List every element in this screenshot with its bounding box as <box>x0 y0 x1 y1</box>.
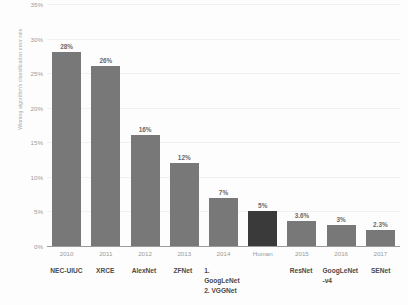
x-axis-tick-label: 2016 <box>322 250 361 257</box>
bar[interactable]: 28% <box>52 52 81 246</box>
bar-value-label: 28% <box>60 43 73 50</box>
model-name-line2: 2. VGGNet <box>204 286 243 296</box>
bar-value-label: 12% <box>178 154 191 161</box>
bar[interactable]: 12% <box>170 163 199 246</box>
model-name-label: GoogLeNet-v4 <box>320 266 361 286</box>
y-axis-tick-label: 5% <box>34 208 43 215</box>
x-axis-tick-label: 2011 <box>86 250 125 257</box>
bar-slot: 5% <box>243 4 282 246</box>
plot-area: 0%5%10%15%20%25%30%35% 28%26%16%12%7%5%3… <box>47 4 400 247</box>
bar-slot: 26% <box>86 4 125 246</box>
y-axis-tick-label: 25% <box>31 70 43 77</box>
y-axis-tick-label: 0% <box>34 243 43 250</box>
bar[interactable]: 7% <box>209 198 238 246</box>
model-name-label: AlexNet <box>125 266 164 276</box>
bar-value-label: 2.3% <box>373 221 388 228</box>
model-name-line1: GoogLeNet <box>322 267 358 274</box>
model-name-label: NEC-UIUC <box>47 266 86 276</box>
bar[interactable]: 3.6% <box>287 221 316 246</box>
x-axis-tick-label: 2017 <box>361 250 400 257</box>
bar-slot: 16% <box>125 4 164 246</box>
model-name-line1: ZFNet <box>173 267 192 274</box>
x-axis-tick-label: 2015 <box>282 250 321 257</box>
x-axis-model-labels: NEC-UIUCXRCEAlexNetZFNet1. GoogLeNet2. V… <box>47 266 400 296</box>
model-name-line1: SENet <box>371 267 390 274</box>
x-axis-tick-label: 2013 <box>165 250 204 257</box>
model-name-label: SENet <box>361 266 400 276</box>
bar-slot: 7% <box>204 4 243 246</box>
bar[interactable]: 2.3% <box>366 230 395 246</box>
bar-value-label: 26% <box>99 57 112 64</box>
bar-value-label: 3% <box>337 216 346 223</box>
x-axis-tick-label: Human <box>243 250 282 257</box>
y-axis-tick-label: 10% <box>31 173 43 180</box>
x-axis-category-labels: 20102011201220132014Human201520162017 <box>47 250 400 257</box>
bar-series: 28%26%16%12%7%5%3.6%3%2.3% <box>47 4 400 246</box>
bar-value-label: 3.6% <box>295 212 310 219</box>
bar-slot: 2.3% <box>361 4 400 246</box>
bar-value-label: 5% <box>258 202 267 209</box>
bar-slot: 3% <box>322 4 361 246</box>
model-name-line1: ResNet <box>290 267 313 274</box>
x-axis-tick-label: 2014 <box>204 250 243 257</box>
y-axis-tick-label: 30% <box>31 35 43 42</box>
y-axis-title: Winning algorithm's classification error… <box>17 0 23 159</box>
x-axis-tick-label: 2010 <box>47 250 86 257</box>
y-axis-tick-label: 15% <box>31 139 43 146</box>
model-name-label: ResNet <box>282 266 321 276</box>
model-name-line1: XRCE <box>96 267 114 274</box>
bar-slot: 12% <box>165 4 204 246</box>
model-name-line1: NEC-UIUC <box>50 267 82 274</box>
model-name-line2: -v4 <box>322 276 361 286</box>
bar-slot: 28% <box>47 4 86 246</box>
bar-value-label: 16% <box>139 126 152 133</box>
bar[interactable]: 16% <box>131 135 160 246</box>
bar[interactable]: 5% <box>248 211 277 246</box>
x-axis-line <box>47 246 400 247</box>
model-name-line1: 1. GoogLeNet <box>204 267 240 284</box>
x-axis-tick-label: 2012 <box>125 250 164 257</box>
bar[interactable]: 3% <box>327 225 356 246</box>
model-name-label: XRCE <box>86 266 125 276</box>
model-name-line1: AlexNet <box>132 267 157 274</box>
model-name-label: ZFNet <box>163 266 202 276</box>
bar-slot: 3.6% <box>282 4 321 246</box>
y-axis-tick-label: 20% <box>31 104 43 111</box>
bar-value-label: 7% <box>219 189 228 196</box>
bar-chart: Winning algorithm's classification error… <box>0 0 408 305</box>
model-name-label: 1. GoogLeNet2. VGGNet <box>202 266 243 296</box>
y-axis-tick-label: 35% <box>31 1 43 8</box>
bar[interactable]: 26% <box>91 66 120 246</box>
